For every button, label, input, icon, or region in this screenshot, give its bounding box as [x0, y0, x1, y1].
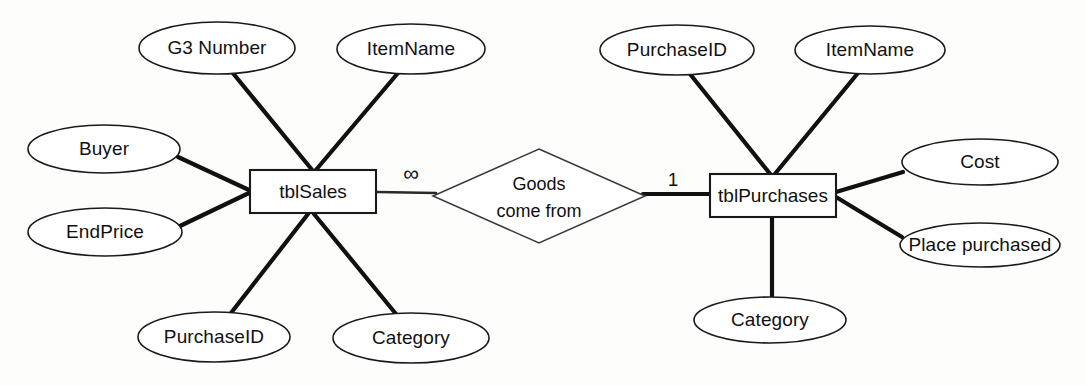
cardinality-one-label: 1 — [668, 169, 679, 190]
entity-tblsales[interactable]: tblSales — [250, 170, 376, 213]
relationship-diamond-shape — [433, 149, 645, 243]
attribute-sales-purchaseid[interactable]: PurchaseID — [138, 312, 290, 362]
attribute-sales-itemname[interactable]: ItemName — [337, 24, 485, 74]
attribute-purchases-cost[interactable]: Cost — [902, 139, 1058, 185]
relationship-label-line2: come from — [496, 201, 581, 221]
connector-purch-place — [836, 197, 902, 237]
connector-sales-to-relationship — [377, 192, 436, 193]
connector-endprice — [180, 193, 249, 226]
entity-tblsales-label: tblSales — [279, 181, 347, 202]
attribute-label: PurchaseID — [164, 326, 264, 347]
connector-sales-itemname — [315, 73, 398, 171]
connector-g3-number — [232, 72, 313, 171]
attribute-label: Category — [731, 309, 809, 330]
attribute-sales-buyer[interactable]: Buyer — [28, 125, 180, 173]
er-diagram-canvas: Goods come from ∞ 1 tblSales tblPurchase… — [0, 0, 1086, 385]
entity-tblpurchases-label: tblPurchases — [718, 185, 828, 206]
attribute-label: Cost — [960, 151, 1000, 172]
relationship-label-line1: Goods — [512, 174, 565, 194]
attribute-label: Place purchased — [908, 234, 1051, 255]
attribute-purchases-category[interactable]: Category — [694, 297, 846, 343]
connector-purch-purchaseid — [690, 74, 771, 175]
er-diagram-svg: Goods come from ∞ 1 tblSales tblPurchase… — [0, 0, 1086, 385]
attribute-label: Buyer — [79, 138, 130, 159]
connector-buyer — [178, 157, 249, 190]
attribute-label: Category — [372, 327, 450, 348]
entity-tblpurchases[interactable]: tblPurchases — [710, 174, 836, 217]
connector-sales-purchaseid — [231, 214, 308, 313]
relationship-goods-come-from[interactable]: Goods come from — [433, 149, 645, 243]
attribute-sales-category[interactable]: Category — [333, 313, 489, 363]
attribute-label: ItemName — [826, 39, 914, 60]
attribute-purchases-place-purchased[interactable]: Place purchased — [900, 223, 1060, 267]
attribute-label: EndPrice — [66, 221, 144, 242]
attribute-purchases-purchaseid[interactable]: PurchaseID — [600, 25, 754, 75]
attribute-label: G3 Number — [167, 37, 267, 58]
attribute-purchases-itemname[interactable]: ItemName — [795, 26, 945, 74]
cardinality-many-label: ∞ — [403, 161, 419, 186]
attribute-label: ItemName — [367, 38, 455, 59]
connector-purch-itemname — [774, 73, 858, 175]
attribute-label: PurchaseID — [627, 39, 727, 60]
attribute-sales-g3-number[interactable]: G3 Number — [139, 22, 295, 74]
connector-purch-cost — [836, 172, 903, 192]
attribute-sales-endprice[interactable]: EndPrice — [28, 208, 182, 256]
connector-sales-category — [314, 214, 396, 314]
